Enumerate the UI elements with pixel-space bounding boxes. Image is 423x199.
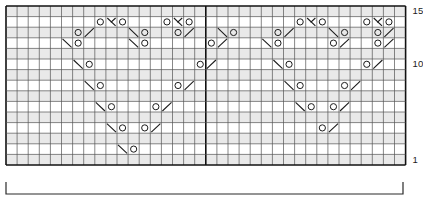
row-number-label: 1 xyxy=(413,155,418,165)
pattern-repeat-bracket xyxy=(6,182,403,194)
row-number-label: 15 xyxy=(413,6,423,16)
row-number-label: 10 xyxy=(413,59,423,69)
